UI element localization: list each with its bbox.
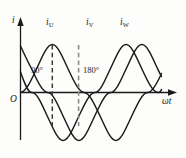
curve-label-iw-sub: W: [123, 21, 129, 28]
annotation-90-degrees: 90°: [31, 66, 43, 75]
curve-label-iv: iV: [86, 18, 93, 28]
x-axis-label: ωt: [162, 97, 171, 107]
curve-label-iu: iU: [46, 18, 53, 28]
curve-label-iu-sub: U: [49, 21, 54, 28]
annotation-180-degrees: 180°: [83, 66, 99, 75]
curve-label-iw: iW: [120, 18, 129, 28]
origin-label: O: [10, 95, 17, 105]
curve-label-iv-sub: V: [89, 21, 94, 28]
y-axis-label: i: [12, 16, 15, 26]
three-phase-waveform-figure: i O ωt iU iV iW 90° 180°: [0, 0, 186, 158]
